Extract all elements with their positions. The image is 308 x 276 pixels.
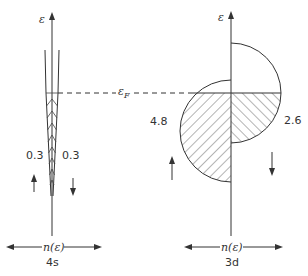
- energy-axis-label-4s: ε: [39, 13, 45, 26]
- dos-axis-label-3d: n(ε): [221, 241, 243, 254]
- dos-diagram: ε 0.3 0.3 n(ε) 4s εF: [0, 0, 308, 276]
- energy-axis-label-3d: ε: [218, 11, 224, 24]
- fermi-level: εF: [58, 85, 190, 100]
- occupation-up-4s: 0.3: [26, 149, 44, 162]
- panel-label-4s: 4s: [46, 256, 59, 269]
- occupation-down-4s: 0.3: [62, 149, 80, 162]
- occupation-up-3d: 4.8: [150, 115, 168, 128]
- fermi-label: εF: [118, 85, 130, 100]
- panel-label-3d: 3d: [225, 256, 239, 269]
- occupied-region-3d-up: [180, 80, 231, 182]
- dos-axis-label-4s: n(ε): [43, 241, 65, 254]
- panel-3d: ε 4.8 2.6 n(ε) 3d: [150, 11, 302, 269]
- panel-4s: ε 0.3 0.3 n(ε) 4s: [10, 13, 98, 269]
- occupation-down-3d: 2.6: [284, 114, 302, 127]
